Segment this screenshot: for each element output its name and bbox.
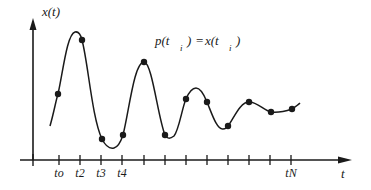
equation-rhs-subscript: i <box>229 43 232 53</box>
sample-point <box>289 106 295 112</box>
sample-point <box>246 99 252 105</box>
sample-point <box>99 136 105 142</box>
equation-rhs-close: ) <box>235 33 240 48</box>
sample-point <box>225 123 231 129</box>
equation-equals: = <box>196 33 203 48</box>
y-axis-arrow-icon <box>30 18 37 30</box>
tick-label: t4 <box>117 166 126 180</box>
tick-label: t2 <box>75 166 84 180</box>
sample-point <box>204 99 210 105</box>
sample-point <box>162 132 168 138</box>
sampling-equation: p(t i ) = x(t i ) <box>154 33 240 53</box>
sample-point <box>141 59 147 65</box>
x-axis-arrow-icon <box>338 157 352 164</box>
sample-point <box>268 109 274 115</box>
sample-point <box>120 132 126 138</box>
sample-point <box>79 37 85 43</box>
x-axis-tick-labels: tot2t3t4tN <box>54 166 297 180</box>
equation-lhs-close: ) <box>186 33 191 48</box>
sample-point <box>55 91 61 97</box>
x-axis-label: t <box>341 166 345 181</box>
y-axis-label: x(t) <box>41 4 60 19</box>
signal-curve <box>50 32 300 148</box>
y-axis <box>30 18 37 160</box>
sample-point <box>183 96 189 102</box>
equation-lhs-subscript: i <box>180 43 183 53</box>
sampled-signal-diagram: x(t) t p(t i ) = x(t i ) tot2t3t4tN <box>0 0 371 190</box>
equation-lhs: p(t <box>154 33 170 48</box>
equation-rhs: x(t <box>204 33 219 48</box>
tick-label: tN <box>285 166 297 180</box>
tick-label: to <box>54 166 63 180</box>
tick-label: t3 <box>96 166 105 180</box>
